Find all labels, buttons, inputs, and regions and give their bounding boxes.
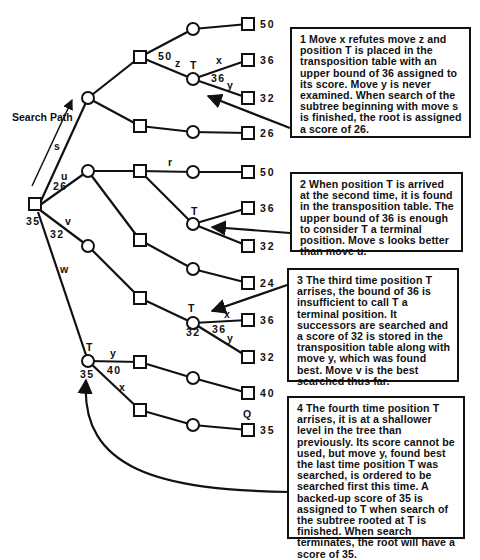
leaf-node <box>242 202 254 214</box>
position-t-1 <box>187 73 199 85</box>
leaf-node <box>242 424 254 436</box>
root-score: 35 <box>26 215 41 227</box>
leaf-score: 32 <box>260 351 276 363</box>
note-2-text: 2 When position T is arrived at the seco… <box>300 179 455 257</box>
leaf-node <box>242 92 254 104</box>
t3-move-y: y <box>227 332 233 344</box>
leaf-node <box>242 314 254 326</box>
t3-label: T <box>188 302 195 314</box>
t3-move-x: x <box>224 308 230 320</box>
t1-label: T <box>190 59 197 71</box>
note-4-text: 4 The fourth time position T arrises, it… <box>297 403 457 560</box>
t1-move-y: y <box>227 79 233 91</box>
v-score: 32 <box>50 228 65 240</box>
position-t-2 <box>187 218 199 230</box>
leaf-score: 36 <box>260 202 276 214</box>
leaf-node <box>242 127 254 139</box>
search-path-label: Search Path <box>12 111 73 123</box>
note-1: 1 Move x refutes move z and position T i… <box>290 27 471 138</box>
leaf-score: 36 <box>260 54 276 66</box>
move-r-label: r <box>168 156 172 168</box>
u-score: 26 <box>53 180 68 192</box>
leaf-node <box>242 387 254 399</box>
move-z-label: z <box>175 57 180 69</box>
leaf-node <box>242 18 254 30</box>
note-1-text: 1 Move x refutes move z and position T i… <box>300 34 463 135</box>
circle-nodes <box>82 23 199 431</box>
leaf-score: 50 <box>260 166 276 178</box>
note-3: 3 The third time position T arrises, the… <box>287 268 459 382</box>
root-node <box>29 198 41 210</box>
q-label: Q <box>243 408 251 420</box>
leaf-node <box>242 277 254 289</box>
leaf-score: 26 <box>260 127 276 139</box>
move-s-label: s <box>54 140 60 152</box>
t4-y-score: 40 <box>107 364 122 376</box>
t3-score: 32 <box>186 326 201 338</box>
leaf-score: 32 <box>260 240 276 252</box>
leaf-node <box>242 351 254 363</box>
leaf-score: 40 <box>260 387 276 399</box>
t4-score: 35 <box>80 368 95 380</box>
leaf-node <box>242 166 254 178</box>
leaf-score: 24 <box>260 277 276 289</box>
t3-bound: 36 <box>212 323 227 335</box>
leaf-node <box>242 240 254 252</box>
leaf-score: 32 <box>260 92 276 104</box>
note-2: 2 When position T is arrived at the seco… <box>290 172 463 252</box>
t1-bound: 36 <box>211 72 226 84</box>
t4-label: T <box>86 341 93 353</box>
z-score: 50 <box>158 50 173 62</box>
t4-move-y: y <box>110 347 116 359</box>
leaf-node <box>242 54 254 66</box>
move-v-label: v <box>65 215 71 227</box>
move-w-label: w <box>59 263 69 275</box>
t2-label: T <box>191 205 198 217</box>
note-3-text: 3 The third time position T arrises, the… <box>297 275 451 387</box>
note-4: 4 The fourth time position T arrises, it… <box>287 396 465 539</box>
t4-move-x: x <box>119 381 125 393</box>
leaf-score: 36 <box>260 314 276 326</box>
leaf-scores: 50 36 32 26 50 36 32 24 36 32 40 35 <box>260 18 276 436</box>
leaf-score: 35 <box>260 424 276 436</box>
leaf-score: 50 <box>260 18 276 30</box>
t1-move-x: x <box>216 54 222 66</box>
position-t-4 <box>82 355 94 367</box>
